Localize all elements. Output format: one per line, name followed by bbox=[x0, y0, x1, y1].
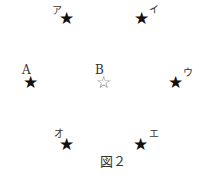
label-e: エ bbox=[149, 129, 159, 139]
star-i-icon: ★ bbox=[134, 10, 149, 27]
star-A-icon: ★ bbox=[23, 74, 38, 91]
star-u-icon: ★ bbox=[168, 74, 183, 91]
star-o-icon: ★ bbox=[59, 136, 74, 153]
star-B-outline-icon: ☆ bbox=[96, 74, 111, 91]
star-a-icon: ★ bbox=[59, 10, 74, 27]
figure-caption: 図２ bbox=[100, 155, 126, 169]
star-e-icon: ★ bbox=[133, 136, 148, 153]
label-u: ウ bbox=[183, 68, 193, 78]
label-i: イ bbox=[149, 5, 159, 15]
